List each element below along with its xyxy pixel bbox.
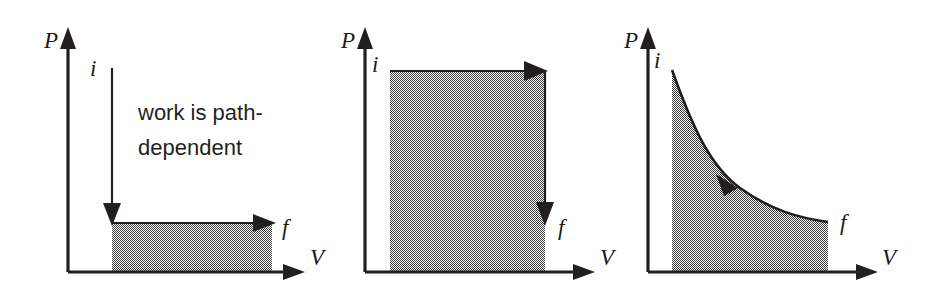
panel-isobaric-then-isochoric: P V i f	[330, 0, 620, 298]
final-state-label-2: f	[558, 215, 568, 240]
pressure-axis-arrowhead-2	[357, 27, 373, 49]
work-area-shading-3	[672, 70, 828, 272]
annotation-line-2: dependent	[138, 135, 242, 160]
volume-axis-label-1: V	[310, 245, 327, 270]
volume-axis-arrowhead-1	[283, 264, 305, 280]
pressure-axis-arrowhead-3	[640, 27, 656, 49]
work-area-shading-1	[112, 223, 272, 272]
initial-state-label-3: i	[654, 48, 660, 73]
annotation-line-1: work is path-	[137, 100, 263, 125]
final-state-label-1: f	[282, 215, 292, 240]
pressure-axis-label-2: P	[340, 28, 355, 53]
volume-axis-arrowhead-2	[573, 264, 595, 280]
volume-axis-arrowhead-3	[856, 264, 878, 280]
initial-state-label-2: i	[372, 52, 378, 77]
panel-constant-pressure-after-drop: P V i f work is path- dependent	[0, 0, 330, 298]
volume-axis-label-2: V	[600, 245, 617, 270]
pv-diagram-figure: P V i f work is path- dependent	[0, 0, 936, 298]
volume-axis-label-3: V	[882, 245, 899, 270]
initial-state-label-1: i	[90, 56, 96, 81]
work-area-shading-2	[390, 71, 545, 272]
panel-isothermal-expansion: P V i f	[620, 0, 936, 298]
pressure-axis-label-1: P	[43, 28, 58, 53]
pressure-axis-arrowhead-1	[60, 27, 76, 49]
pressure-axis-label-3: P	[623, 28, 638, 53]
final-state-label-3: f	[840, 210, 850, 235]
